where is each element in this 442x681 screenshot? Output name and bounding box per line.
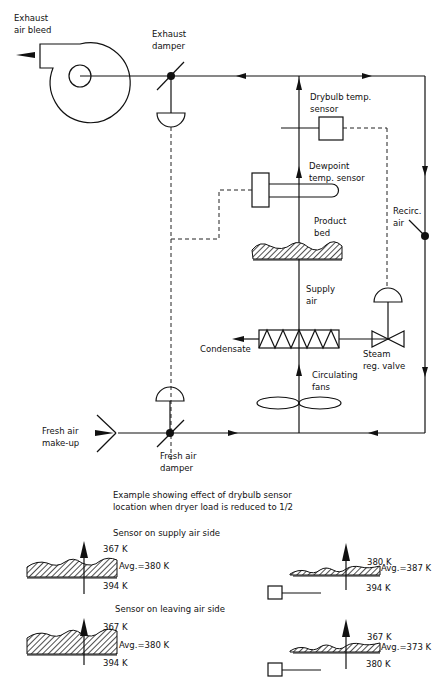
fresh-air-intake-icon: [95, 415, 116, 452]
drybulb-sensor-label: Drybulb temp.sensor: [310, 92, 371, 114]
product-bed-label: Productbed: [314, 216, 347, 238]
flow-arrow-up-icon: [296, 78, 302, 90]
circulating-fans-label: Circulatingfans: [312, 370, 358, 392]
dryer-control-diagram-main: Exhaustdamper Recirc.air Fresh airmake-u…: [0, 0, 442, 681]
flow-arrow-up-icon: [296, 364, 302, 376]
condensate-label: Condensate: [200, 344, 251, 354]
product-bed-icon: [252, 242, 342, 259]
fresh-air-makeup-label: Fresh airmake-up: [42, 426, 79, 448]
dewpoint-sensor-label: Dewpointtemp. sensor: [309, 161, 365, 183]
exhaust-damper-label: Exhaustdamper: [152, 29, 187, 51]
temp-top: 367 K: [103, 622, 128, 632]
recirc-leader: [409, 220, 423, 234]
steam-valve-label: Steamreg. valve: [363, 349, 405, 371]
steam-coil-icon: [259, 330, 390, 348]
temp-avg: Avg.=387 K: [381, 563, 431, 573]
recirc-air-label: Recirc.air: [393, 206, 421, 228]
temp-top: 367 K: [367, 632, 392, 642]
supply-side-heading: Sensor on supply air side: [113, 528, 220, 538]
temp-avg: Avg.=380 K: [119, 640, 169, 650]
example-title: Example showing effect of drybulb sensor…: [113, 490, 293, 512]
dewpoint-signal-line: [171, 190, 252, 239]
exhaust-damper-icon: [157, 62, 185, 127]
temp-top: 367 K: [103, 544, 128, 554]
flow-arrow-down-icon: [422, 166, 428, 176]
flow-arrow-right-icon: [228, 430, 238, 436]
leaving-side-heading: Sensor on leaving air side: [115, 604, 225, 614]
temp-avg: Avg.=373 K: [381, 642, 431, 652]
drybulb-sensor-icon: [281, 117, 343, 140]
temp-bottom: 394 K: [103, 581, 128, 591]
temp-bottom: 380 K: [366, 659, 391, 669]
drybulb-sensor-icon: [268, 663, 321, 676]
steam-valve-icon: [372, 288, 404, 347]
flow-arrow-down-icon: [422, 367, 428, 377]
fresh-air-damper-icon: [156, 387, 184, 447]
flow-arrow-left-icon: [368, 430, 378, 436]
flow-arrow-right-icon: [362, 73, 372, 79]
condensate-arrow-icon: [232, 336, 244, 342]
supply-air-label: Supplyair: [306, 284, 335, 306]
fresh-air-damper-label: Fresh airdamper: [160, 451, 197, 473]
drybulb-sensor-icon: [268, 586, 321, 599]
flow-arrow-left-icon: [236, 73, 246, 79]
temp-bottom: 394 K: [366, 583, 391, 593]
temp-avg: Avg.=380 K: [119, 561, 169, 571]
temp-bottom: 394 K: [103, 658, 128, 668]
flow-arrow-up-icon: [296, 166, 302, 178]
